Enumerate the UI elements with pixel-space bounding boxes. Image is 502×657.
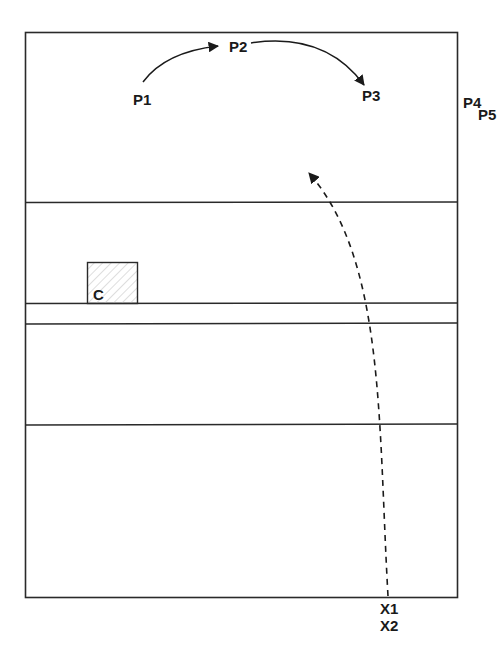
divider-line-4 — [25, 424, 457, 425]
box-c: C — [88, 263, 138, 304]
diagram-canvas: C P1 P2 P3 P4 P5 X1 X2 — [0, 0, 502, 657]
label-p3: P3 — [362, 87, 380, 104]
box-c-label: C — [93, 286, 104, 303]
field-border — [26, 33, 458, 598]
label-p5: P5 — [478, 106, 496, 123]
label-p1: P1 — [133, 91, 151, 108]
arrow-p2-p3 — [251, 41, 364, 85]
label-x1: X1 — [380, 600, 398, 617]
divider-line-3 — [25, 323, 457, 324]
label-p2: P2 — [229, 38, 247, 55]
arrow-p1-p2 — [143, 46, 218, 82]
label-x2: X2 — [380, 617, 398, 634]
divider-line-1 — [25, 202, 457, 203]
dashed-path-x — [309, 173, 388, 596]
